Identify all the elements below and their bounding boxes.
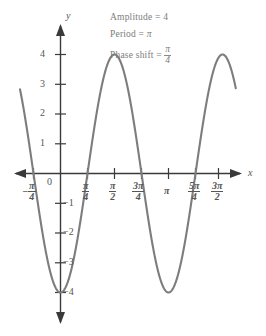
x-tick-3-numerator: 3π (132, 181, 144, 191)
origin-label: 0 (47, 176, 52, 187)
y-tick-label-neg-1: −1 (63, 197, 74, 208)
x-tick-label-pi: π (164, 185, 169, 196)
y-tick-label-neg-2: −2 (63, 226, 74, 237)
x-tick-1-denominator: 4 (82, 191, 89, 202)
annotation-amplitude: Amplitude = 4 (110, 12, 168, 22)
annotation-amplitude-text: Amplitude = (110, 12, 163, 22)
x-tick-0-denominator: 4 (28, 191, 35, 202)
x-tick-label-3pi-over-2: 3π2 (211, 182, 223, 203)
x-tick-label-neg-pi-over-4: −π4 (22, 182, 36, 203)
x-tick-3-denominator: 4 (132, 191, 144, 202)
x-tick-6-denominator: 2 (211, 191, 223, 202)
x-tick-label-3pi-over-4: 3π4 (132, 182, 144, 203)
annotation-amplitude-value: 4 (163, 12, 168, 22)
annotation-phase-shift-fraction: π4 (164, 45, 171, 65)
annotation-period: Period = π (110, 29, 152, 39)
x-tick-label-5pi-over-4: 5π4 (188, 182, 200, 203)
annotation-phase-shift-text: Phase shift = (110, 50, 164, 60)
y-tick-label-neg-4: −4 (63, 286, 74, 297)
y-tick-label-3: 3 (40, 78, 45, 89)
figure-canvas: Amplitude = 4 Period = π Phase shift = π… (0, 0, 266, 336)
x-tick-4-numerator: π (164, 185, 169, 196)
x-tick-2-numerator: π (109, 181, 116, 191)
y-tick-label-2: 2 (40, 107, 45, 118)
x-tick-6-numerator: 3π (211, 181, 223, 191)
x-tick-0-numerator: π (28, 181, 35, 191)
x-tick-5-denominator: 4 (188, 191, 200, 202)
phase-shift-denominator: 4 (164, 55, 171, 66)
x-tick-1-numerator: π (82, 181, 89, 191)
x-tick-label-pi-over-2: π2 (109, 182, 116, 203)
y-tick-label-neg-3: −3 (63, 256, 74, 267)
y-axis-label: y (66, 10, 70, 21)
annotation-period-text: Period = (110, 29, 147, 39)
annotation-phase-shift: Phase shift = π4 (110, 46, 171, 66)
phase-shift-numerator: π (164, 45, 171, 55)
x-tick-label-pi-over-4: π4 (82, 182, 89, 203)
y-tick-label-4: 4 (40, 48, 45, 59)
x-axis-label: x (248, 167, 252, 178)
annotation-period-value: π (147, 29, 152, 39)
x-tick-5-numerator: 5π (188, 181, 200, 191)
x-tick-2-denominator: 2 (109, 191, 116, 202)
y-tick-label-1: 1 (40, 137, 45, 148)
